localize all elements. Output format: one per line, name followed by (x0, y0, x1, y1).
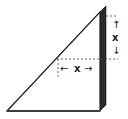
arrow-down-icon: ↓ (112, 45, 120, 56)
arrow-up-icon: ↑ (112, 19, 120, 30)
triangle-face (7, 12, 100, 111)
vertical-x-label: x (112, 32, 119, 43)
horizontal-x-label: x (74, 63, 81, 74)
arrow-left-icon: ← (60, 63, 68, 74)
arrow-right-icon: → (84, 63, 92, 74)
shaded-edge (100, 6, 106, 111)
triangle-diagram: ↑ x ↓ ← x → (0, 0, 128, 119)
